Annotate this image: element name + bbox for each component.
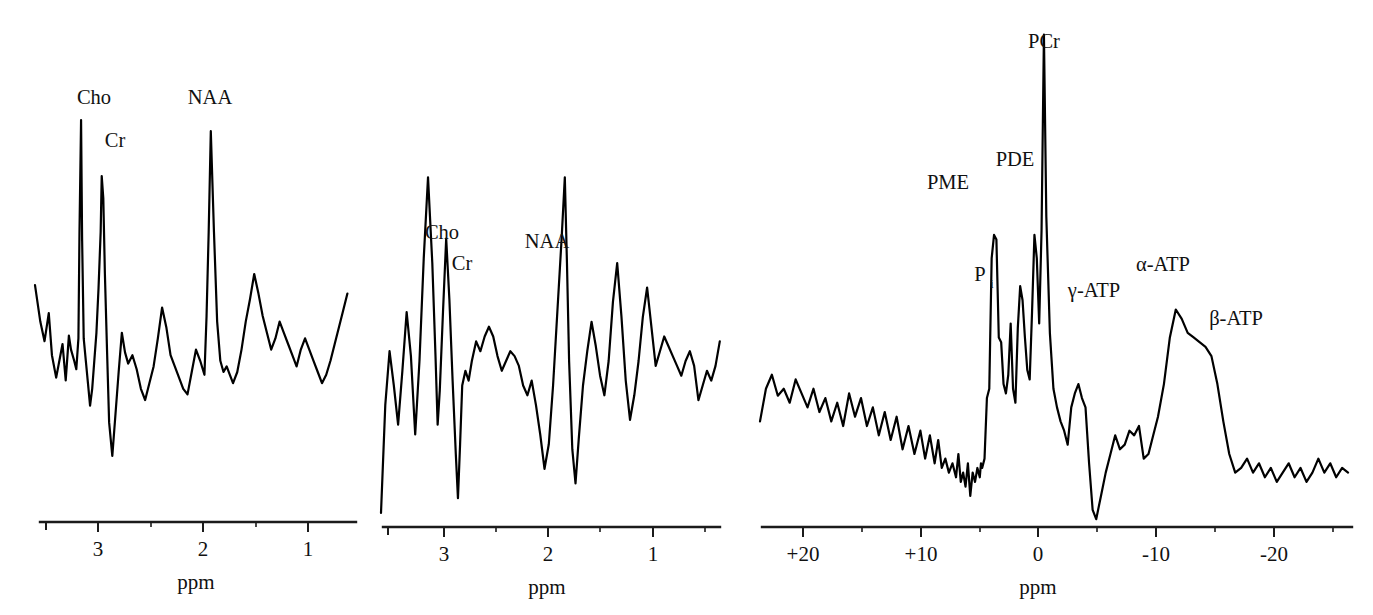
spectrum-panel-2: 3 2 1 ppm Cho Cr NAA [375, 0, 755, 615]
axis-3-title: ppm [1019, 575, 1056, 599]
peak-label-pme: PME [927, 171, 969, 193]
axis-1-ticklabel-3: 3 [93, 537, 104, 561]
peak-label-pde: PDE [996, 148, 1035, 170]
peak-label-pi-base: P [974, 263, 985, 285]
peak-label-cho-2: Cho [425, 221, 459, 243]
axis-2 [383, 527, 720, 537]
axis-3-ticklabel-plus10: +10 [905, 542, 938, 566]
peak-label-beta-atp: β-ATP [1209, 307, 1263, 330]
axis-3-ticklabel-minus20: -20 [1260, 542, 1288, 566]
axis-1 [40, 522, 356, 532]
spectrum-panel-3: +20 +10 0 -10 -20 ppm PME P i PDE PCr γ-… [733, 0, 1373, 615]
mr-spectroscopy-figure: 3 2 1 ppm Cho Cr NAA 3 2 1 ppm Cho Cr NA… [0, 0, 1373, 615]
axis-3 [762, 527, 1352, 537]
axis-2-ticklabel-1: 1 [648, 542, 659, 566]
axis-1-ticklabel-2: 2 [198, 537, 209, 561]
peak-label-cr-1: Cr [105, 129, 126, 151]
spectrum-trace-1 [35, 120, 347, 456]
peak-label-naa-1: NAA [188, 86, 233, 108]
axis-2-title: ppm [528, 575, 565, 599]
axis-1-title: ppm [177, 570, 214, 594]
peak-label-alpha-atp: α-ATP [1136, 253, 1190, 275]
axis-1-ticklabel-1: 1 [303, 537, 314, 561]
peak-label-pi-subscript: i [990, 276, 994, 291]
axis-2-ticklabel-3: 3 [439, 542, 450, 566]
peak-label-gamma-atp: γ-ATP [1067, 279, 1120, 302]
axis-2-ticklabel-2: 2 [543, 542, 554, 566]
peak-label-naa-2: NAA [525, 230, 570, 252]
peak-label-cr-2: Cr [452, 252, 473, 274]
spectrum-panel-1: 3 2 1 ppm Cho Cr NAA [0, 0, 380, 615]
axis-3-ticklabel-zero: 0 [1033, 542, 1044, 566]
axis-3-ticklabel-minus10: -10 [1142, 542, 1170, 566]
peak-label-pcr: PCr [1028, 30, 1060, 52]
peak-label-cho-1: Cho [77, 86, 111, 108]
spectrum-trace-3 [760, 35, 1348, 520]
axis-3-ticklabel-plus20: +20 [787, 542, 820, 566]
